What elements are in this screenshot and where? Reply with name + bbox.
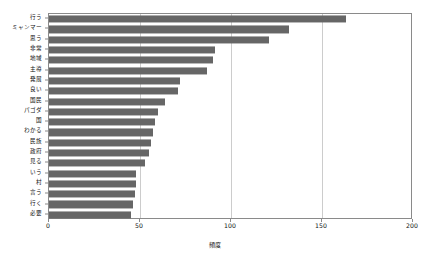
bar-row: [49, 55, 411, 65]
x-axis-tick-label: 0: [46, 223, 50, 229]
y-axis-label: 発展: [30, 77, 42, 83]
x-axis-tick-label: 50: [135, 223, 143, 229]
bar-row: [49, 86, 411, 96]
bar-row: [49, 24, 411, 34]
bar-row: [49, 45, 411, 55]
y-axis-label: 思う: [30, 36, 42, 42]
y-axis-label: パゴダ: [24, 108, 42, 114]
x-axis-tick-label: 150: [315, 223, 327, 229]
y-axis-label: 政府: [30, 149, 42, 155]
bar-row: [49, 107, 411, 117]
bar: [49, 211, 131, 218]
bar: [49, 170, 136, 177]
bar: [49, 129, 153, 136]
bar-row: [49, 76, 411, 86]
y-axis-label: 主導: [30, 67, 42, 73]
y-axis-label: 非常: [30, 46, 42, 52]
y-axis-label: 見る: [30, 160, 42, 166]
y-axis-label: 国: [36, 118, 42, 124]
bar: [49, 36, 269, 43]
bar: [49, 57, 213, 64]
bar-rows: [49, 14, 411, 218]
y-axis-label: 必要: [30, 211, 42, 217]
bar-row: [49, 168, 411, 178]
y-axis-label: 村: [36, 180, 42, 186]
bar: [49, 139, 151, 146]
bar: [49, 46, 215, 53]
y-axis-label: ミャンマー: [12, 26, 42, 32]
y-axis-labels: 行うミャンマー思う非常地域主導発展良い国民パゴダ国わかる民族政府見るいう村言う行…: [0, 13, 45, 219]
bar-row: [49, 158, 411, 168]
bar: [49, 98, 165, 105]
bar: [49, 67, 207, 74]
bar-row: [49, 148, 411, 158]
bar-row: [49, 96, 411, 106]
bar-row: [49, 35, 411, 45]
bar: [49, 119, 155, 126]
bar: [49, 191, 135, 198]
bar: [49, 26, 289, 33]
bar-row: [49, 127, 411, 137]
y-axis-label: いう: [30, 170, 42, 176]
bar: [49, 88, 178, 95]
bar-row: [49, 138, 411, 148]
y-axis-label: わかる: [24, 129, 42, 135]
bar: [49, 77, 180, 84]
y-axis-label: 国民: [30, 98, 42, 104]
y-axis-label: 地域: [30, 57, 42, 63]
bar-row: [49, 14, 411, 24]
bar: [49, 180, 136, 187]
bar-chart: 行うミャンマー思う非常地域主導発展良い国民パゴダ国わかる民族政府見るいう村言う行…: [0, 0, 430, 264]
bar: [49, 16, 346, 23]
y-axis-label: 民族: [30, 139, 42, 145]
y-axis-label: 行う: [30, 15, 42, 21]
x-axis-tick-label: 200: [406, 223, 418, 229]
bar-row: [49, 189, 411, 199]
y-axis-label: 行く: [30, 201, 42, 207]
x-axis-tick-label: 100: [224, 223, 236, 229]
bar: [49, 160, 145, 167]
bar-row: [49, 199, 411, 209]
bar: [49, 201, 133, 208]
plot-area: [48, 13, 412, 219]
x-axis-ticks: 050100150200: [48, 219, 412, 241]
y-axis-label: 良い: [30, 87, 42, 93]
bar: [49, 149, 149, 156]
bar-row: [49, 65, 411, 75]
bar: [49, 108, 158, 115]
bar-row: [49, 117, 411, 127]
x-axis-title: 頻度: [0, 240, 430, 249]
bar-row: [49, 179, 411, 189]
y-axis-label: 言う: [30, 190, 42, 196]
